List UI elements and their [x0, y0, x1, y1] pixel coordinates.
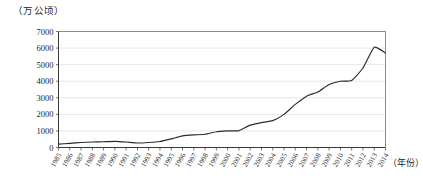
y-tick-label: 1000: [37, 126, 54, 136]
axes-frame-group: [59, 32, 386, 148]
x-tick-labels-group: 1985198619871988198919901991199219931994…: [49, 152, 390, 169]
x-axis-title: （年份）: [388, 156, 423, 169]
y-tick-label: 7000: [37, 27, 54, 37]
x-tick-label: 2010: [331, 152, 345, 169]
y-tick-label: 2000: [37, 109, 54, 119]
y-tick-label: 3000: [37, 93, 54, 103]
gridlines-group: [59, 48, 386, 131]
data-series-line: [59, 47, 386, 144]
y-tick-label: 5000: [37, 60, 54, 70]
y-tick-label: 0: [49, 143, 53, 153]
y-tick-label: 4000: [37, 76, 54, 86]
y-tick-labels-group: 01000200030004000500060007000: [37, 27, 54, 153]
line-chart-figure: （万公顷） 01000200030004000500060007000 1985…: [0, 0, 423, 185]
y-tick-label: 6000: [37, 43, 54, 53]
chart-plot-area: 01000200030004000500060007000 1985198619…: [0, 0, 423, 185]
